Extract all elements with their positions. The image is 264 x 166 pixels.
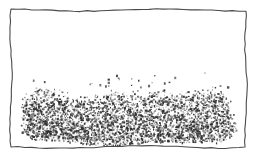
drawing-surface xyxy=(0,0,264,166)
figure-canvas: Hand-drawn framed sketch of a dense low … xyxy=(0,0,264,166)
